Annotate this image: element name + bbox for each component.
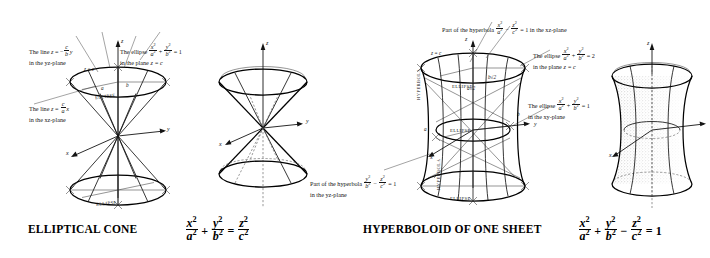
note-line2: in the yz-plane	[310, 190, 396, 199]
semi-axis-label-b: b	[517, 111, 520, 117]
math-eq: = −	[53, 48, 63, 55]
annotation-hyperbola-xz-plane: Part of the hyperbola x2a2 − z2c2 = 1 in…	[442, 22, 567, 36]
annotation-ellipse-plane-zc: The ellipse x2a2 + y2b2 = 1 in the plane…	[120, 44, 182, 67]
math-op: −	[506, 26, 510, 33]
eq-fraction-z2-c2: z2 c2	[238, 217, 249, 242]
axis-label-x: x	[430, 154, 433, 160]
panel-elliptical-cone: The line z = −cby in the yz-plane The el…	[0, 0, 350, 258]
annotation-hyperbola-yz-plane: Part of the hyperbola y2b2 − z2c2 = 1 in…	[310, 176, 396, 199]
rendered-axis-label-x: x	[609, 152, 612, 158]
math-var-x: x	[66, 105, 69, 112]
math-val-c: = c	[153, 59, 163, 66]
frac-denominator: a2	[579, 229, 591, 242]
trace-label-hyperbola-lower: HYPERBOLA	[436, 159, 441, 190]
math-rhs: = 1 in the xz-plane	[519, 26, 567, 33]
note-line2: in the xz-plane	[29, 115, 69, 124]
frac-denominator: a2	[496, 28, 503, 35]
note-line2: in the xy-plane	[528, 112, 590, 121]
annotation-line-xz-plane: The line z = cax in the xz-plane	[29, 101, 69, 124]
fraction-x2-over-a2: x2a2	[496, 22, 503, 36]
axis-label-y: y	[167, 126, 170, 132]
fraction-x2-over-a2: x2a2	[562, 48, 569, 62]
frac-denominator: c2	[379, 182, 386, 189]
caption-elliptical-cone: ELLIPTICAL CONE	[28, 223, 137, 235]
frac-denominator: a	[61, 107, 66, 114]
annotation-line-yz-plane: The line z = −cby in the yz-plane	[29, 44, 73, 67]
panel-hyperboloid-one-sheet: Part of the hyperbola x2a2 − z2c2 = 1 in…	[350, 0, 700, 258]
math-var-y: y	[70, 48, 73, 55]
fraction-z2-over-c2: z2c2	[379, 176, 386, 190]
trace-label-ellipse-top: ELLIPSE	[452, 84, 473, 89]
math-op: +	[159, 48, 163, 55]
note-text: Part of the hyperbola	[310, 180, 364, 187]
eq-operator-minus: −	[620, 224, 627, 238]
fraction-x2-over-a2: x2a2	[149, 44, 156, 58]
eq-fraction-x2-a2: x2 a2	[186, 217, 198, 242]
elliptical-cone-rendered	[205, 40, 325, 215]
eq-fraction-y2-b2: y2 b2	[212, 217, 224, 242]
fraction-y2-over-b2: y2b2	[572, 98, 579, 112]
semi-axis-label-a: a	[101, 85, 104, 91]
fraction-x2-over-a2: x2a2	[557, 98, 564, 112]
equation-elliptical-cone: x2 a2 + y2 b2 = z2 c2	[185, 217, 250, 242]
eq-fraction-x2-a2: x2 a2	[579, 217, 591, 242]
math-rhs: = 2	[585, 52, 595, 59]
rendered-axis-label-z: z	[266, 40, 268, 46]
trace-label-ellipse-middle: ELLIPSE	[450, 128, 471, 133]
note-line2-pre: in the plane	[120, 59, 150, 66]
frac-denominator: b2	[364, 182, 371, 189]
equation-hyperboloid-one-sheet: x2 a2 + y2 b2 − z2 c2 = 1	[578, 217, 662, 242]
frac-denominator: c2	[511, 28, 518, 35]
annotation-ellipse-plane-zc-2: The ellipse x2a2 + y2b2 = 2 in the plane…	[533, 48, 595, 71]
math-eq: =	[53, 105, 60, 112]
frac-denominator: c2	[631, 229, 642, 242]
math-val-c: = c	[566, 63, 576, 70]
eq-rhs-one: 1	[656, 224, 662, 238]
axis-label-z: z	[121, 38, 123, 44]
note-line2-pre: in the plane	[533, 63, 563, 70]
eq-operator-plus: +	[201, 224, 208, 238]
math-rhs: = 1	[387, 180, 397, 187]
hyperboloid-wireframe	[400, 38, 550, 208]
frac-denominator: b2	[605, 229, 617, 242]
axis-label-y: y	[534, 121, 537, 127]
eq-fraction-y2-b2: y2 b2	[605, 217, 617, 242]
eq-fraction-z2-c2: z2 c2	[631, 217, 642, 242]
eq-operator-equals: =	[646, 224, 653, 238]
note-text: The ellipse	[533, 52, 562, 59]
rendered-axis-label-z: z	[647, 40, 649, 46]
eq-operator-plus: +	[594, 224, 601, 238]
fraction-c-over-a: ca	[61, 101, 66, 115]
math-op: +	[572, 52, 576, 59]
frac-denominator: b2	[572, 104, 579, 111]
annotation-ellipse-xy-plane: The ellipse x2a2 + y2b2 = 1 in the xy-pl…	[528, 98, 590, 121]
note-text: The line	[29, 105, 51, 112]
fraction-z2-over-c2: z2c2	[511, 22, 518, 36]
frac-denominator: c2	[238, 229, 249, 242]
fraction-y2-over-b2: y2b2	[577, 48, 584, 62]
note-text: Part of the hyperbola	[442, 26, 496, 33]
rendered-axis-label-x: x	[219, 141, 222, 147]
fraction-y2-over-b2: y2b2	[164, 44, 171, 58]
frac-denominator: b2	[577, 54, 584, 61]
frac-denominator: a2	[149, 50, 156, 57]
eq-operator-equals: =	[227, 224, 234, 238]
frac-denominator: b2	[212, 229, 224, 242]
note-text: The ellipse	[120, 48, 149, 55]
scaled-axis-label-b-root2: b√2	[488, 74, 496, 80]
axis-label-x: x	[66, 150, 69, 156]
axis-label-z: z	[465, 36, 467, 42]
math-rhs: = 1	[580, 102, 590, 109]
frac-denominator: a2	[557, 104, 564, 111]
math-op: +	[567, 102, 571, 109]
note-line2: in the yz-plane	[29, 58, 73, 67]
trace-label-ellipse-bottom: ELLIPSE	[450, 196, 471, 201]
semi-axis-label-a: a	[424, 126, 427, 132]
rendered-axis-label-y: y	[306, 118, 309, 124]
frac-denominator: a2	[186, 229, 198, 242]
frac-denominator: b	[64, 50, 69, 57]
math-op: −	[374, 180, 378, 187]
note-text: The ellipse	[528, 102, 557, 109]
caption-hyperboloid-one-sheet: HYPERBOLOID OF ONE SHEET	[363, 223, 542, 235]
note-text: The line	[29, 48, 51, 55]
